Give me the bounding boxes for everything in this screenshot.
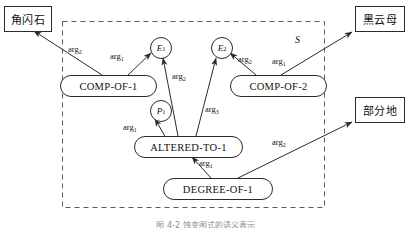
arg-base: arg [110,51,121,61]
arg-label-compof1-hornblende: arg2 [68,44,82,55]
variable-e1-subscript: 1 [162,45,165,52]
edge-alteredto1-to-e2 [196,58,216,136]
variable-e2-subscript: 2 [223,45,226,52]
edge-alteredto1-to-e1 [163,58,178,136]
arg-base: arg [272,56,283,66]
arg-label-alteredto1-e1: arg2 [172,71,186,82]
edge-compof1-to-e1 [128,53,151,75]
arg-label-degreeof1-alteredto: arg1 [199,158,213,169]
arg-sub: 1 [283,61,286,67]
entity-box-hornblende[interactable]: 角闪石 [4,6,52,32]
entity-box-biotite[interactable]: 黑云母 [355,6,405,32]
variable-p1-subscript: 1 [162,108,165,115]
arg-sub: 2 [183,76,186,82]
arg-sub: 3 [216,109,219,115]
arg-base: arg [238,54,249,64]
predicate-comp-of-1[interactable]: COMP-OF-1 [60,75,157,97]
arg-base: arg [199,158,210,168]
predicate-comp-of-2[interactable]: COMP-OF-2 [230,75,327,97]
arg-base: arg [205,104,216,114]
arg-sub: 2 [79,49,82,55]
arg-sub: 2 [283,142,286,148]
scope-label-s: S [295,34,300,45]
arg-label-compof2-e2: arg2 [238,54,252,65]
variable-p1[interactable]: P1 [150,100,172,122]
edge-degreeof1-to-partially [238,122,352,178]
arg-sub: 1 [121,56,124,62]
entity-box-partially[interactable]: 部分地 [355,97,405,123]
predicate-degree-of-1[interactable]: DEGREE-OF-1 [163,178,273,200]
variable-e2[interactable]: E2 [211,37,233,59]
arg-sub: 1 [134,127,137,133]
arg-label-degreeof1-partially: arg2 [272,137,286,148]
arg-label-alteredto1-p1: arg1 [123,122,137,133]
variable-e1[interactable]: E1 [150,37,172,59]
figure-caption: 图 4-2 蚀变图式的语义表示 [0,219,411,228]
figure-canvas: 角闪石 黑云母 部分地 E1 E2 P1 COMP-OF-1 COMP-OF-2… [0,0,411,228]
arg-label-compof1-e1: arg1 [110,51,124,62]
arg-base: arg [68,44,79,54]
arg-sub: 1 [210,163,213,169]
edge-compof2-to-biotite [281,32,352,75]
arg-base: arg [272,137,283,147]
arg-label-alteredto1-e2: arg3 [205,104,219,115]
arg-sub: 2 [249,59,252,65]
arg-base: arg [172,71,183,81]
arg-label-compof2-biotite: arg1 [272,56,286,67]
arg-base: arg [123,122,134,132]
predicate-altered-to-1[interactable]: ALTERED-TO-1 [134,136,243,158]
